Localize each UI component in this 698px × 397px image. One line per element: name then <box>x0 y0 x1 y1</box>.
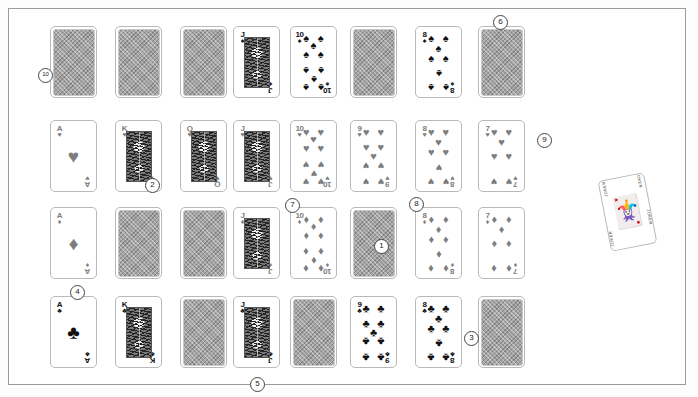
card-corner-index: A♦ <box>54 212 65 225</box>
card-back-diamonds-2[interactable] <box>180 207 227 279</box>
pip-icon: ♠ <box>443 53 449 64</box>
pip-icon: ♦ <box>303 246 309 257</box>
card-face: J♣J♣ <box>236 299 278 366</box>
pip-icon: ♥ <box>491 175 498 186</box>
card-8-of-spades[interactable]: 8♠8♠♠♠♠♠♠♠♠♠ <box>415 26 462 98</box>
card-7-of-hearts[interactable]: 7♥7♥♥♥♥♥♥♥♥ <box>478 120 525 192</box>
pip-icon: ♥ <box>435 137 442 148</box>
marker-7: 7 <box>285 198 300 213</box>
pip-icon: ♠ <box>443 81 449 92</box>
court-card-artwork <box>244 37 270 88</box>
court-card-artwork <box>126 131 152 182</box>
card-back-spades-5[interactable] <box>350 26 397 98</box>
joker-figure-icon: 🃏 <box>606 194 648 231</box>
card-face: 9♥9♥♥♥♥♥♥♥♥♥♥ <box>353 123 395 190</box>
pip-icon: ♦ <box>311 221 317 232</box>
card-10-of-diamonds[interactable]: 10♦10♦♦♦♦♦♦♦♦♦♦♦ <box>290 207 337 279</box>
card-back-clubs-2[interactable] <box>180 296 227 368</box>
card-10-of-hearts[interactable]: 10♥10♥♥♥♥♥♥♥♥♥♥♥ <box>290 120 337 192</box>
pip-icon: ♥ <box>435 161 442 172</box>
pip-icon: ♥ <box>506 175 513 186</box>
card-a-of-hearts[interactable]: A♥A♥♥ <box>50 120 97 192</box>
card-a-of-clubs[interactable]: A♣A♣♣ <box>50 296 97 368</box>
card-back-pattern <box>183 299 225 366</box>
pip-icon: ♥ <box>428 175 435 186</box>
pip-grid: ♦♦♦♦♦♦♦ <box>489 219 515 268</box>
card-7-of-diamonds[interactable]: 7♦7♦♦♦♦♦♦♦♦ <box>478 207 525 279</box>
pip-icon: ♥ <box>428 147 435 158</box>
pip-icon: ♣ <box>363 336 370 347</box>
pip-icon: ♥ <box>378 141 385 152</box>
pip-icon: ♥ <box>378 175 385 186</box>
card-9-of-hearts[interactable]: 9♥9♥♥♥♥♥♥♥♥♥♥ <box>350 120 397 192</box>
card-a-of-diamonds[interactable]: A♦A♦♦ <box>50 207 97 279</box>
pip-icon: ♦ <box>428 213 434 224</box>
card-j-of-diamonds[interactable]: J♦J♦ <box>233 207 280 279</box>
pip-icon: ♠ <box>303 81 309 92</box>
pip-icon: ♥ <box>443 126 450 137</box>
pip-icon: ♠ <box>428 53 434 64</box>
pip-icon: ♥ <box>318 159 325 170</box>
card-corner-index: A♣ <box>54 301 65 314</box>
card-j-of-spades[interactable]: J♠J♠ <box>233 26 280 98</box>
pip-icon: ♥ <box>491 151 498 162</box>
ace-center-pip-icon: ♦ <box>69 234 79 253</box>
pip-icon: ♣ <box>363 302 370 313</box>
marker-6: 6 <box>493 15 508 30</box>
card-k-of-clubs[interactable]: K♣K♣ <box>115 296 162 368</box>
pip-icon: ♦ <box>318 262 324 273</box>
pip-icon: ♠ <box>436 43 442 54</box>
pip-icon: ♥ <box>370 151 377 162</box>
card-q-of-hearts[interactable]: Q♥Q♥ <box>180 120 227 192</box>
marker-3: 3 <box>464 331 479 346</box>
marker-9: 9 <box>537 133 552 148</box>
card-back-clubs-7[interactable] <box>478 296 525 368</box>
court-card-artwork <box>244 218 270 269</box>
card-9-of-clubs[interactable]: 9♣9♣♣♣♣♣♣♣♣♣♣ <box>350 296 397 368</box>
card-face: 10♦10♦♦♦♦♦♦♦♦♦♦♦ <box>293 210 335 277</box>
card-back-spades-2[interactable] <box>180 26 227 98</box>
suit-symbol-icon: ♦ <box>54 219 65 225</box>
card-back-diamonds-1[interactable] <box>115 207 162 279</box>
card-back-spades-1[interactable] <box>115 26 162 98</box>
pip-grid: ♥♥♥♥♥♥♥♥ <box>426 132 452 181</box>
card-face: J♥J♥ <box>236 123 278 190</box>
pip-icon: ♥ <box>378 160 385 171</box>
pip-icon: ♣ <box>435 313 442 324</box>
pip-icon: ♥ <box>303 126 310 137</box>
pip-icon: ♥ <box>318 175 325 186</box>
card-8-of-clubs[interactable]: 8♣8♣♣♣♣♣♣♣♣♣ <box>415 296 462 368</box>
pip-icon: ♣ <box>377 336 384 347</box>
pip-grid: ♠♠♠♠♠♠♠♠♠♠ <box>301 38 327 87</box>
card-j-of-clubs[interactable]: J♣J♣ <box>233 296 280 368</box>
pip-icon: ♥ <box>363 141 370 152</box>
card-face: 8♠8♠♠♠♠♠♠♠♠♠ <box>418 29 460 96</box>
card-back-spades-0[interactable] <box>50 26 97 98</box>
suit-symbol-icon: ♥ <box>82 175 93 181</box>
suit-symbol-icon: ♦ <box>82 262 93 268</box>
card-back-pattern <box>481 29 523 96</box>
card-8-of-diamonds[interactable]: 8♦8♦♦♦♦♦♦♦♦♦ <box>415 207 462 279</box>
card-back-clubs-4[interactable] <box>290 296 337 368</box>
suit-symbol-icon: ♣ <box>82 351 93 357</box>
card-back-pattern <box>118 210 160 277</box>
card-8-of-hearts[interactable]: 8♥8♥♥♥♥♥♥♥♥♥ <box>415 120 462 192</box>
card-10-of-spades[interactable]: 10♠10♠♠♠♠♠♠♠♠♠♠♠ <box>290 26 337 98</box>
card-j-of-hearts[interactable]: J♥J♥ <box>233 120 280 192</box>
pip-icon: ♣ <box>442 323 449 334</box>
joker-corner-text: JOKER <box>636 172 644 188</box>
pip-icon: ♣ <box>377 317 384 328</box>
pip-icon: ♦ <box>318 213 324 224</box>
card-face: 8♥8♥♥♥♥♥♥♥♥♥ <box>418 123 460 190</box>
pip-icon: ♦ <box>318 229 324 240</box>
pip-grid: ♣♣♣♣♣♣♣♣♣ <box>361 308 387 357</box>
card-back-spades-7[interactable] <box>478 26 525 98</box>
pip-icon: ♥ <box>363 175 370 186</box>
pip-icon: ♦ <box>491 262 497 273</box>
pip-icon: ♦ <box>443 234 449 245</box>
pip-grid: ♥♥♥♥♥♥♥ <box>489 132 515 181</box>
ace-center-pip-icon: ♣ <box>67 323 79 342</box>
card-back-pattern <box>53 29 95 96</box>
card-back-pattern <box>118 29 160 96</box>
card-face: A♦A♦♦ <box>53 210 95 277</box>
